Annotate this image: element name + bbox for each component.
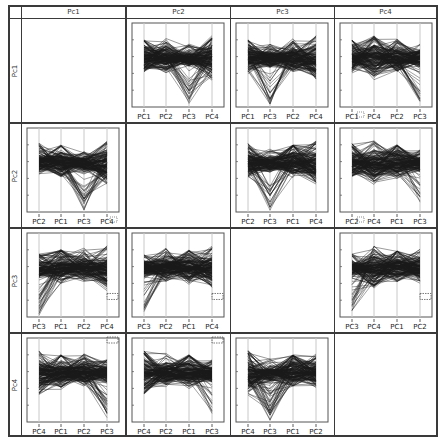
axis-label-pc4: PC4 — [205, 113, 219, 121]
axis-label-pc1: PC1 — [54, 323, 68, 331]
axis-label-pc4: PC4 — [367, 218, 381, 226]
row-header-pc1: Pc1 — [10, 19, 21, 122]
parallel-plot-3-2: PC4PC3PC1PC2 — [231, 334, 334, 437]
axis-label-pc1: PC1 — [286, 218, 300, 226]
parallel-plot-1-0: PC2PC1PC3PC4 — [22, 124, 125, 227]
column-header-pc3: Pc3 — [231, 7, 334, 18]
axis-label-pc3: PC3 — [182, 113, 196, 121]
axis-label-pc4: PC4 — [32, 428, 46, 436]
parallel-plot-1-2: PC2PC3PC1PC4 — [231, 124, 334, 227]
axis-label-pc3: PC3 — [205, 428, 219, 436]
axis-label-pc3: PC3 — [137, 323, 151, 331]
axis-label-pc4: PC4 — [367, 113, 381, 121]
axis-label-pc4: PC4 — [367, 323, 381, 331]
parallel-plot-2-1: PC3PC2PC1PC4 — [127, 229, 230, 332]
axis-label-pc2: PC2 — [159, 113, 173, 121]
parallel-plot-3-0: PC4PC1PC2PC3 — [22, 334, 125, 437]
axis-label-pc2: PC2 — [159, 428, 173, 436]
axis-label-pc2: PC2 — [413, 323, 427, 331]
parallel-plot-2-3: PC3PC4PC1PC2 — [335, 229, 438, 332]
axis-label-pc1: PC1 — [286, 428, 300, 436]
axis-label-pc2: PC2 — [77, 323, 91, 331]
axis-label-pc1: PC1 — [54, 218, 68, 226]
parallel-plot-0-1: PC1PC2PC3PC4 — [127, 19, 230, 122]
axis-label-pc3: PC3 — [100, 428, 114, 436]
parallel-plot-1-3: PC2PC4PC1PC3 — [335, 124, 438, 227]
axis-label-pc1: PC1 — [137, 113, 151, 121]
row-header-pc2: Pc2 — [10, 124, 21, 227]
parallel-plot-0-2: PC1PC3PC2PC4 — [231, 19, 334, 122]
axis-label-pc1: PC1 — [390, 323, 404, 331]
axis-label-pc3: PC3 — [263, 428, 277, 436]
column-header-pc2: Pc2 — [127, 7, 230, 18]
parallel-plot-2-0: PC3PC1PC2PC4 — [22, 229, 125, 332]
axis-label-pc2: PC2 — [345, 218, 359, 226]
axis-label-pc4: PC4 — [205, 323, 219, 331]
column-header-pc1: Pc1 — [22, 7, 125, 18]
axis-label-pc3: PC3 — [263, 218, 277, 226]
column-header-pc4: Pc4 — [335, 7, 436, 18]
row-header-label: Pc4 — [12, 378, 20, 391]
parallel-plot-3-1: PC4PC2PC1PC3 — [127, 334, 230, 437]
axis-label-pc1: PC1 — [54, 428, 68, 436]
axis-label-pc2: PC2 — [390, 113, 404, 121]
axis-label-pc2: PC2 — [77, 428, 91, 436]
row-header-label: Pc1 — [12, 64, 20, 77]
axis-label-pc2: PC2 — [159, 323, 173, 331]
axis-label-pc4: PC4 — [241, 428, 255, 436]
axis-label-pc4: PC4 — [309, 113, 323, 121]
axis-label-pc3: PC3 — [32, 323, 46, 331]
axis-label-pc1: PC1 — [182, 428, 196, 436]
axis-label-pc3: PC3 — [263, 113, 277, 121]
axis-label-pc1: PC1 — [182, 323, 196, 331]
axis-label-pc2: PC2 — [32, 218, 46, 226]
scatterplot-matrix: Pc1 Pc2 Pc3 Pc4 Pc1 Pc2 Pc3 Pc4 PC1PC2PC… — [8, 5, 438, 437]
axis-label-pc4: PC4 — [309, 218, 323, 226]
axis-label-pc2: PC2 — [309, 428, 323, 436]
axis-label-pc1: PC1 — [390, 218, 404, 226]
axis-label-pc3: PC3 — [345, 323, 359, 331]
axis-label-pc1: PC1 — [345, 113, 359, 121]
row-header-label: Pc3 — [12, 274, 20, 287]
row-header-pc4: Pc4 — [10, 334, 21, 435]
row-header-label: Pc2 — [12, 169, 20, 182]
axis-label-pc4: PC4 — [100, 323, 114, 331]
axis-label-pc2: PC2 — [286, 113, 300, 121]
parallel-plot-0-3: PC1PC4PC2PC3 — [335, 19, 438, 122]
axis-label-pc4: PC4 — [137, 428, 151, 436]
axis-label-pc3: PC3 — [77, 218, 91, 226]
axis-label-pc3: PC3 — [413, 113, 427, 121]
row-header-pc3: Pc3 — [10, 229, 21, 332]
axis-label-pc3: PC3 — [413, 218, 427, 226]
axis-label-pc1: PC1 — [241, 113, 255, 121]
axis-label-pc2: PC2 — [241, 218, 255, 226]
